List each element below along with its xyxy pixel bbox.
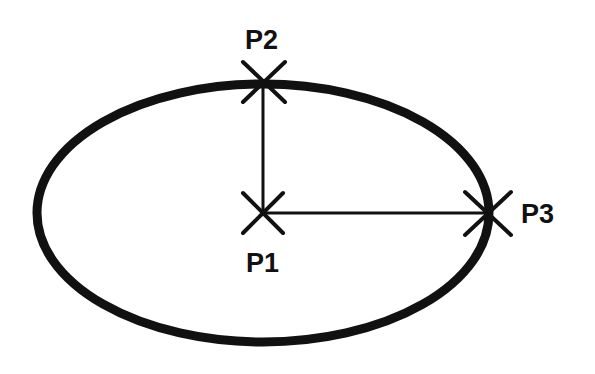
ellipse-diagram: P1 P2 P3 xyxy=(0,0,595,374)
p1-label: P1 xyxy=(246,248,279,278)
p2-label: P2 xyxy=(245,25,278,55)
p3-label: P3 xyxy=(521,199,554,229)
